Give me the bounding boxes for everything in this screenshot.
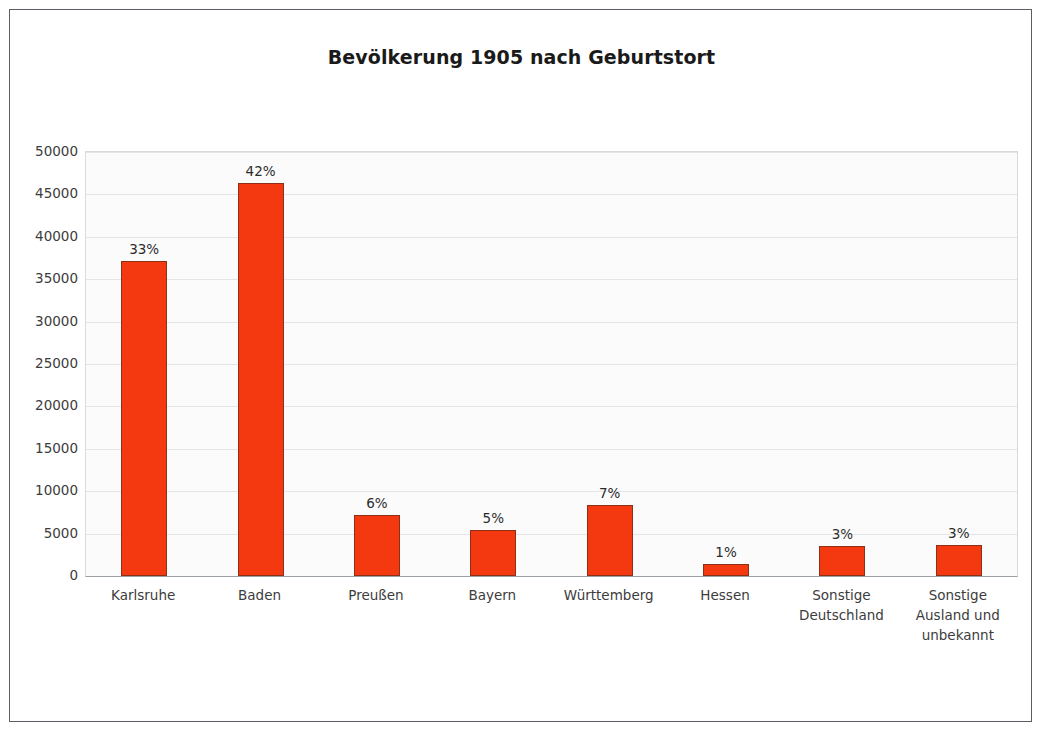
y-axis-tick-label: 35000 — [8, 270, 78, 286]
y-axis-tick-label: 25000 — [8, 355, 78, 371]
bar[interactable] — [354, 515, 400, 576]
bar-group: 5% — [435, 152, 551, 576]
bar-value-label: 1% — [715, 544, 736, 560]
bar-value-label: 7% — [599, 485, 620, 501]
x-axis-tick-label-line: Württemberg — [551, 585, 667, 605]
x-axis-tick-label-line: Karlsruhe — [85, 585, 201, 605]
x-axis-tick-label: SonstigeAusland undunbekannt — [900, 585, 1016, 645]
bar-group: 42% — [202, 152, 318, 576]
bar[interactable] — [703, 564, 749, 576]
x-axis-tick-label-line: Hessen — [667, 585, 783, 605]
bar[interactable] — [587, 505, 633, 576]
x-axis-tick-label: Preußen — [318, 585, 434, 605]
x-axis-tick-label-line: Preußen — [318, 585, 434, 605]
y-axis-tick-label: 15000 — [8, 440, 78, 456]
x-axis-tick-label: SonstigeDeutschland — [783, 585, 899, 625]
x-axis-tick-label-line: Sonstige — [900, 585, 1016, 605]
bar-value-label: 42% — [246, 163, 276, 179]
x-axis-tick-label-line: Sonstige — [783, 585, 899, 605]
x-axis-tick-label: Württemberg — [551, 585, 667, 605]
chart-title: Bevölkerung 1905 nach Geburtstort — [0, 46, 1043, 68]
y-axis-tick-label: 45000 — [8, 185, 78, 201]
bar[interactable] — [121, 261, 167, 576]
bar[interactable] — [936, 545, 982, 576]
bar[interactable] — [819, 546, 865, 576]
x-axis-tick-label-line: Deutschland — [783, 605, 899, 625]
plot-area: 33%42%6%5%7%1%3%3% — [85, 151, 1018, 577]
y-axis-tick-label: 0 — [8, 567, 78, 583]
x-axis-tick-label: Baden — [201, 585, 317, 605]
bar[interactable] — [238, 183, 284, 576]
x-axis-tick-label-line: unbekannt — [900, 625, 1016, 645]
x-axis-tick-label: Karlsruhe — [85, 585, 201, 605]
y-axis-tick-label: 30000 — [8, 313, 78, 329]
x-axis-tick-label-line: Ausland und — [900, 605, 1016, 625]
bar-value-label: 5% — [483, 510, 504, 526]
bar-group: 1% — [668, 152, 784, 576]
bar-group: 3% — [784, 152, 900, 576]
y-axis: 5000045000400003500030000250002000015000… — [0, 140, 78, 590]
x-axis: KarlsruheBadenPreußenBayernWürttembergHe… — [85, 585, 1016, 675]
bar-group: 6% — [319, 152, 435, 576]
bar-value-label: 33% — [129, 241, 159, 257]
x-axis-tick-label-line: Baden — [201, 585, 317, 605]
x-axis-tick-label-line: Bayern — [434, 585, 550, 605]
bar-value-label: 6% — [366, 495, 387, 511]
bar-group: 33% — [86, 152, 202, 576]
bar-value-label: 3% — [948, 525, 969, 541]
bar-group: 7% — [552, 152, 668, 576]
y-axis-tick-label: 5000 — [8, 525, 78, 541]
y-axis-tick-label: 20000 — [8, 397, 78, 413]
bar[interactable] — [470, 530, 516, 576]
x-axis-tick-label: Bayern — [434, 585, 550, 605]
y-axis-tick-label: 50000 — [8, 143, 78, 159]
bar-group: 3% — [901, 152, 1017, 576]
y-axis-tick-label: 40000 — [8, 228, 78, 244]
x-axis-tick-label: Hessen — [667, 585, 783, 605]
y-axis-tick-label: 10000 — [8, 482, 78, 498]
bar-value-label: 3% — [832, 526, 853, 542]
